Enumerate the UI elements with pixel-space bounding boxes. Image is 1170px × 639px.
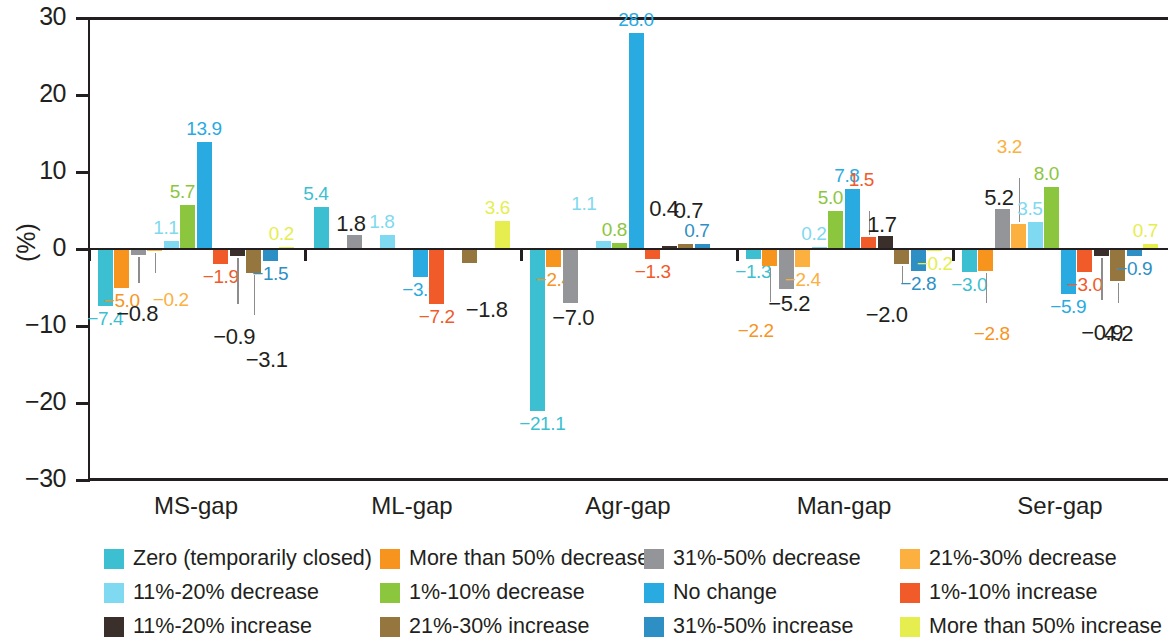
bar-value-label: 3.2 (997, 136, 1022, 158)
x-axis-category-label: ML-gap (332, 492, 492, 520)
legend-label: 21%-30% decrease (929, 548, 1117, 570)
legend-item[interactable]: 11%-20% increase (104, 616, 312, 638)
legend-swatch-icon (644, 583, 664, 603)
x-axis-category-label: Agr-gap (548, 492, 708, 520)
legend-swatch-icon (900, 617, 920, 637)
legend-item[interactable]: 31%-50% increase (644, 616, 853, 638)
legend-label: Zero (temporarily closed) (133, 548, 372, 570)
legend-item[interactable]: No change (644, 582, 777, 604)
legend-swatch-icon (644, 549, 664, 569)
label-leader-line (1101, 258, 1103, 300)
bar (962, 249, 977, 272)
legend-swatch-icon (900, 549, 920, 569)
legend-label: 1%-10% decrease (409, 582, 585, 604)
legend-item[interactable]: 11%-20% decrease (104, 582, 319, 604)
legend-swatch-icon (380, 583, 400, 603)
bar (978, 249, 993, 271)
legend-item[interactable]: Zero (temporarily closed) (104, 548, 372, 570)
legend-item[interactable]: More than 50% increase (900, 616, 1162, 638)
legend-item[interactable]: More than 50% decrease (380, 548, 649, 570)
legend-swatch-icon (380, 617, 400, 637)
bar-value-label: 8.0 (1034, 163, 1059, 185)
legend-label: 31%-50% increase (673, 616, 853, 638)
bar (1011, 224, 1026, 249)
legend-item[interactable]: 31%-50% decrease (644, 548, 861, 570)
legend-label: 1%-10% increase (929, 582, 1098, 604)
legend-item[interactable]: 21%-30% decrease (900, 548, 1117, 570)
x-axis-category-label: MS-gap (116, 492, 276, 520)
label-leader-line (986, 273, 988, 303)
bar-value-label: −2.8 (974, 323, 1010, 345)
legend-swatch-icon (104, 617, 124, 637)
bar (1044, 187, 1059, 249)
bar (1127, 249, 1142, 256)
legend-label: More than 50% increase (929, 616, 1162, 638)
bar (995, 209, 1010, 249)
legend-label: 21%-30% increase (409, 616, 589, 638)
bar-value-label: −3.0 (951, 274, 987, 296)
chart-legend: Zero (temporarily closed)More than 50% d… (104, 548, 1166, 636)
legend-swatch-icon (380, 549, 400, 569)
legend-item[interactable]: 1%-10% increase (900, 582, 1098, 604)
legend-label: 31%-50% decrease (673, 548, 861, 570)
bar-value-label: −3.0 (1067, 274, 1103, 296)
bar-value-label: −5.9 (1050, 296, 1086, 318)
bar (1028, 222, 1043, 249)
bar-value-label: 0.7 (1133, 220, 1158, 242)
legend-swatch-icon (104, 583, 124, 603)
bar-chart: (%) 3020100−10−20−30 −7.4−5.0−0.8−0.21.1… (0, 0, 1170, 639)
legend-swatch-icon (104, 549, 124, 569)
legend-item[interactable]: 21%-30% increase (380, 616, 589, 638)
legend-label: 11%-20% increase (133, 616, 312, 638)
bar-value-label: 3.5 (1017, 198, 1042, 220)
zero-baseline (88, 248, 1168, 250)
legend-swatch-icon (900, 583, 920, 603)
bar-value-label: 5.2 (984, 185, 1013, 211)
bar (1094, 249, 1109, 256)
legend-item[interactable]: 1%-10% decrease (380, 582, 585, 604)
legend-label: More than 50% decrease (409, 548, 649, 570)
x-axis-category-label: Ser-gap (980, 492, 1140, 520)
bar (1077, 249, 1092, 272)
legend-swatch-icon (644, 617, 664, 637)
y-axis-tick: −30 (0, 480, 84, 481)
bar-value-label: −0.9 (1116, 258, 1152, 280)
legend-label: 11%-20% decrease (133, 582, 319, 604)
x-axis-category-label: Man-gap (764, 492, 924, 520)
label-leader-line (1118, 283, 1120, 303)
legend-label: No change (673, 582, 777, 604)
bar-value-label: 4.2 (1104, 321, 1133, 347)
